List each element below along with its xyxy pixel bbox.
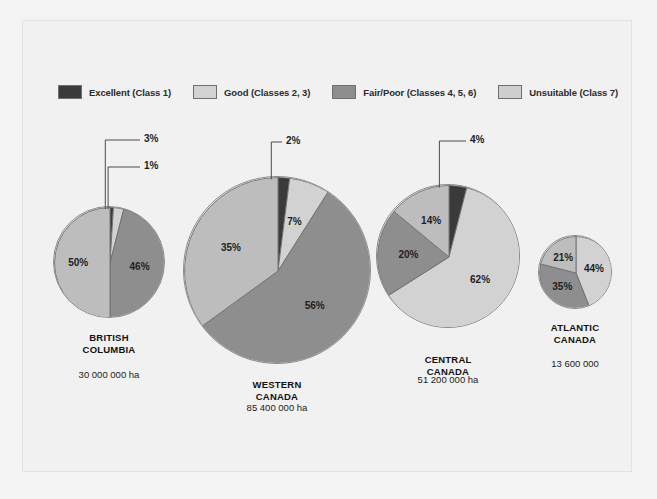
figure-canvas: Excellent (Class 1) Good (Classes 2, 3) …	[0, 0, 657, 499]
region-name: ATLANTIC CANADA	[551, 322, 599, 346]
slice-label-good: 44%	[584, 263, 604, 274]
slice-label-unsuitable: 21%	[553, 251, 573, 262]
slice-label-fair-poor: 35%	[552, 281, 572, 292]
slice-callout-excellent: 4%	[470, 134, 484, 145]
region-area-label: 13 600 000	[551, 358, 599, 369]
region-area-label: 51 200 000 ha	[418, 374, 479, 385]
leader-line	[439, 141, 466, 188]
